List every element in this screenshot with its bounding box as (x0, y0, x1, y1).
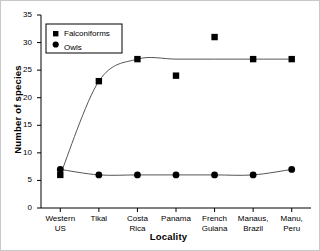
data-point-marker (250, 172, 257, 179)
y-axis-tick-label: 5 (12, 175, 32, 184)
data-point-marker (211, 34, 217, 40)
x-axis-tick-label-line2: Rica (110, 224, 164, 234)
y-axis-tick-label: 0 (12, 203, 32, 212)
x-axis-tick-label-line1: Manu, (265, 214, 319, 224)
data-point-marker (288, 166, 295, 173)
y-axis-tick-label: 20 (12, 93, 32, 102)
legend-entry-label: Falconiforms (64, 29, 110, 38)
data-point-marker (173, 172, 180, 179)
y-axis-tick-label: 35 (12, 10, 32, 19)
x-axis-tick-label-line2: Peru (265, 224, 319, 234)
chart-figure: Number of species Locality 0510152025303… (0, 0, 320, 251)
data-point-marker (134, 56, 140, 62)
data-point-marker (250, 56, 256, 62)
data-point-marker (95, 172, 102, 179)
legend-entry-label: Owls (64, 43, 82, 52)
circle-marker-icon (53, 41, 59, 47)
data-point-marker (96, 78, 102, 84)
square-marker-icon (53, 31, 58, 36)
x-axis-tick-label: Manu,Peru (265, 214, 319, 234)
x-axis-tick-label-line2: US (33, 224, 87, 234)
data-point-marker (211, 172, 218, 179)
y-axis-tick-label: 30 (12, 38, 32, 47)
y-axis-tick-label: 15 (12, 120, 32, 129)
data-point-marker (173, 72, 179, 78)
data-point-marker (57, 166, 64, 173)
y-axis-tick-label: 10 (12, 148, 32, 157)
data-point-marker (134, 172, 141, 179)
y-axis-tick-label: 25 (12, 65, 32, 74)
data-point-marker (289, 56, 295, 62)
